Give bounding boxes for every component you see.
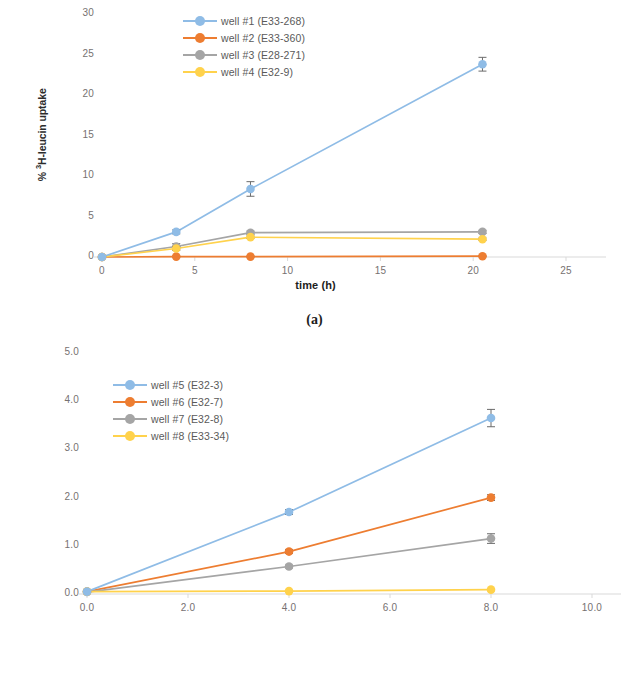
figure-panel-b: % 3H-leucine uptake time (h) (b): [0, 340, 621, 679]
y-axis-title-superscript-a: 3: [34, 165, 43, 169]
chart-a-caption: (a): [0, 312, 621, 328]
chart-a-x-tick-label: 20: [453, 265, 493, 276]
chart-a-y-tick-label: 20: [54, 88, 94, 99]
data-point-series-4: [172, 244, 181, 253]
legend-item-5[interactable]: well #5 (E32-3): [113, 376, 229, 393]
data-point-series-1: [246, 185, 255, 194]
legend-label: well #7 (E32-8): [151, 413, 223, 425]
legend-marker-icon: [113, 378, 147, 392]
chart-a-legend: well #1 (E33-268)well #2 (E33-360)well #…: [183, 12, 305, 80]
data-point-series-2: [487, 493, 496, 502]
data-point-series-1: [285, 508, 294, 517]
series-line-4: [102, 237, 483, 257]
chart-b: [0, 340, 621, 635]
legend-item-2[interactable]: well #2 (E33-360): [183, 29, 305, 46]
data-point-series-3: [487, 534, 496, 543]
chart-a-x-tick-label: 5: [175, 265, 215, 276]
legend-marker-icon: [183, 14, 217, 28]
data-point-series-2: [285, 547, 294, 556]
legend-marker-icon: [113, 412, 147, 426]
chart-b-x-tick-label: 6.0: [370, 602, 410, 613]
data-point-series-1: [83, 587, 92, 596]
data-point-series-1: [478, 60, 487, 69]
chart-a-y-tick-label: 10: [54, 169, 94, 180]
legend-item-4[interactable]: well #4 (E32-9): [183, 63, 305, 80]
chart-b-x-tick-label: 10.0: [572, 602, 612, 613]
chart-b-legend: well #5 (E32-3)well #6 (E32-7)well #7 (E…: [113, 376, 229, 444]
chart-a-y-tick-label: 25: [54, 48, 94, 59]
chart-a-x-axis-title: time (h): [0, 279, 621, 291]
chart-a-x-tick-label: 0: [82, 265, 122, 276]
chart-b-y-tick-label: 4.0: [39, 394, 79, 405]
y-axis-title-prefix-a: %: [36, 169, 48, 181]
legend-label: well #5 (E32-3): [151, 379, 223, 391]
legend-marker-icon: [113, 395, 147, 409]
chart-a-y-tick-label: 30: [54, 7, 94, 18]
data-point-series-4: [285, 587, 294, 596]
data-point-series-1: [98, 253, 107, 262]
data-point-series-1: [487, 414, 496, 423]
chart-b-y-tick-label: 5.0: [39, 346, 79, 357]
legend-marker-icon: [183, 31, 217, 45]
data-point-series-1: [172, 228, 181, 237]
data-point-series-3: [285, 562, 294, 571]
chart-b-x-tick-label: 4.0: [269, 602, 309, 613]
legend-item-1[interactable]: well #1 (E33-268): [183, 12, 305, 29]
legend-label: well #6 (E32-7): [151, 396, 223, 408]
legend-marker-icon: [183, 48, 217, 62]
legend-item-6[interactable]: well #6 (E32-7): [113, 393, 229, 410]
chart-a-y-axis-title: % 3H-leucin uptake: [34, 75, 48, 195]
chart-b-x-tick-label: 0.0: [67, 602, 107, 613]
legend-label: well #4 (E32-9): [221, 66, 293, 78]
chart-a-x-tick-label: 25: [546, 265, 586, 276]
series-line-1: [102, 64, 483, 257]
chart-b-x-tick-label: 2.0: [168, 602, 208, 613]
chart-b-x-tick-label: 8.0: [471, 602, 511, 613]
legend-marker-icon: [183, 65, 217, 79]
legend-label: well #8 (E33-34): [151, 430, 229, 442]
chart-b-y-tick-label: 0.0: [39, 587, 79, 598]
data-point-series-2: [478, 252, 487, 261]
chart-a-y-tick-label: 0: [54, 250, 94, 261]
chart-a-x-tick-label: 15: [360, 265, 400, 276]
chart-b-plot: [0, 340, 621, 635]
chart-a-y-tick-label: 5: [54, 210, 94, 221]
data-point-series-2: [172, 252, 181, 261]
data-point-series-4: [246, 233, 255, 242]
data-point-series-2: [246, 252, 255, 261]
data-point-series-4: [478, 235, 487, 244]
legend-item-3[interactable]: well #3 (E28-271): [183, 46, 305, 63]
legend-marker-icon: [113, 429, 147, 443]
chart-b-y-tick-label: 3.0: [39, 442, 79, 453]
legend-item-8[interactable]: well #8 (E33-34): [113, 427, 229, 444]
legend-item-7[interactable]: well #7 (E32-8): [113, 410, 229, 427]
series-line-2: [102, 256, 483, 257]
chart-a-y-tick-label: 15: [54, 129, 94, 140]
chart-b-y-tick-label: 1.0: [39, 539, 79, 550]
legend-label: well #2 (E33-360): [221, 32, 305, 44]
data-point-series-4: [487, 585, 496, 594]
y-axis-title-suffix-a: H-leucin uptake: [36, 88, 48, 165]
chart-a-x-tick-label: 10: [268, 265, 308, 276]
chart-b-y-tick-label: 2.0: [39, 491, 79, 502]
legend-label: well #1 (E33-268): [221, 15, 305, 27]
series-line-3: [102, 232, 483, 257]
legend-label: well #3 (E28-271): [221, 49, 305, 61]
